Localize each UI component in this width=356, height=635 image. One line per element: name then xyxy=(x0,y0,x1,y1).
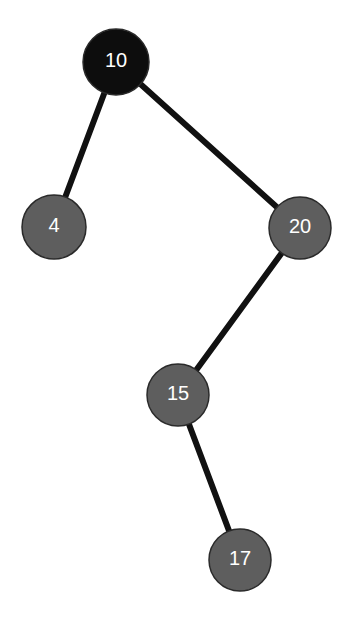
node-label: 20 xyxy=(289,215,311,237)
tree-node-15: 15 xyxy=(147,364,209,426)
node-label: 15 xyxy=(167,382,189,404)
tree-edges xyxy=(54,62,300,560)
edge-10-20 xyxy=(116,62,300,228)
binary-tree-diagram: 104201517 xyxy=(0,0,356,635)
node-label: 10 xyxy=(105,49,127,71)
tree-node-20: 20 xyxy=(269,197,331,259)
tree-node-4: 4 xyxy=(22,195,86,259)
node-label: 4 xyxy=(48,214,59,236)
node-label: 17 xyxy=(229,547,251,569)
tree-node-10: 10 xyxy=(83,29,149,95)
tree-node-17: 17 xyxy=(209,529,271,591)
